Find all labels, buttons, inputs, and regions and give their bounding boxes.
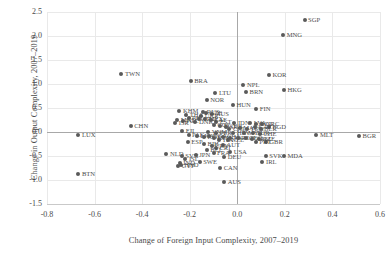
scatter-point-label: CAN	[224, 165, 238, 172]
scatter-point	[76, 133, 80, 137]
scatter-point-label: LUX	[82, 132, 96, 139]
scatter-point	[253, 125, 257, 129]
scatter-point	[241, 83, 245, 87]
scatter-point-label: ESP	[191, 139, 202, 146]
scatter-point	[303, 18, 307, 22]
x-axis-tick-label: -0.4	[122, 210, 162, 219]
scatter-point	[254, 107, 258, 111]
scatter-point	[314, 133, 318, 137]
scatter-point	[260, 160, 264, 164]
scatter-point	[179, 163, 183, 167]
y-axis-tick-label: 0.5	[6, 103, 42, 112]
x-gridline	[380, 12, 381, 204]
y-gridline	[47, 156, 380, 157]
scatter-point-label: MDA	[287, 153, 302, 160]
scatter-point	[244, 90, 248, 94]
scatter-point-label: TWN	[125, 71, 140, 78]
scatter-point-label: MNG	[287, 32, 302, 39]
scatter-point	[218, 166, 222, 170]
bottom-axis-line	[47, 204, 380, 205]
scatter-point	[212, 136, 216, 140]
scatter-point	[221, 135, 225, 139]
scatter-point	[222, 180, 226, 184]
scatter-point	[177, 109, 181, 113]
scatter-point	[187, 116, 191, 120]
y-axis-tick-label: -0.5	[6, 151, 42, 160]
scatter-point	[195, 134, 199, 138]
scatter-point	[212, 151, 216, 155]
y-gridline	[47, 180, 380, 181]
y-axis-tick-label: 0.0	[6, 127, 42, 136]
scatter-point	[129, 124, 133, 128]
scatter-point	[213, 91, 217, 95]
scatter-point	[76, 172, 80, 176]
scatter-point	[267, 73, 271, 77]
x-axis-tick-label: -0.2	[170, 210, 210, 219]
scatter-point-label: BRN	[250, 89, 264, 96]
x-axis-tick-label: 0.0	[217, 210, 257, 219]
x-axis-title: Change of Foreign Input Complexity, 2007…	[47, 236, 380, 245]
scatter-point-label: BGR	[363, 133, 377, 140]
scatter-point-label: HKG	[287, 87, 301, 94]
scatter-point	[209, 118, 213, 122]
y-axis-tick-label: 2.0	[6, 31, 42, 40]
scatter-point-label: BRA	[194, 78, 208, 85]
scatter-point	[187, 133, 191, 137]
scatter-point-label: AZE	[262, 136, 275, 143]
scatter-point-label: USA	[234, 149, 247, 156]
y-axis-tick-label: 1.0	[6, 79, 42, 88]
scatter-point-label: NOR	[210, 97, 224, 104]
scatter-point	[259, 127, 263, 131]
y-gridline	[47, 36, 380, 37]
scatter-point	[357, 134, 361, 138]
y-axis-tick-label: 2.5	[6, 7, 42, 16]
plot-area: -0.8-0.6-0.4-0.20.00.20.40.62.52.01.51.0…	[47, 12, 380, 204]
scatter-point-label: FIN	[260, 106, 271, 113]
y-axis-tick-label: -1.5	[6, 199, 42, 208]
scatter-point	[205, 98, 209, 102]
y-gridline	[47, 60, 380, 61]
scatter-point-label: IRL	[266, 159, 277, 166]
scatter-point	[119, 72, 123, 76]
x-axis-tick-label: -0.8	[27, 210, 67, 219]
y-axis-tick-label: -1.0	[6, 175, 42, 184]
scatter-point-label: CHN	[134, 123, 148, 130]
x-axis-tick-label: 0.4	[312, 210, 352, 219]
x-axis-tick-label: -0.6	[75, 210, 115, 219]
scatter-point-label: SGP	[308, 17, 320, 24]
scatter-point-label: SWE	[203, 159, 217, 166]
scatter-point	[212, 123, 216, 127]
scatter-point	[202, 142, 206, 146]
scatter-point-label: MLT	[320, 132, 333, 139]
scatter-point	[218, 124, 222, 128]
scatter-point	[282, 88, 286, 92]
scatter-point	[257, 137, 261, 141]
scatter-point	[186, 140, 190, 144]
y-gridline	[47, 12, 380, 13]
scatter-point	[189, 79, 193, 83]
y-gridline	[47, 84, 380, 85]
scatter-point	[173, 121, 177, 125]
scatter-point-label: HND	[184, 162, 198, 169]
x-axis-tick-label: 0.2	[265, 210, 305, 219]
scatter-point-label: HUN	[237, 102, 251, 109]
x-axis-tick-label: 0.6	[360, 210, 390, 219]
scatter-point	[231, 103, 235, 107]
scatter-point-label: AUS	[228, 179, 241, 186]
scatter-point	[282, 154, 286, 158]
scatter-point	[202, 135, 206, 139]
scatter-point-label: BTN	[82, 171, 95, 178]
y-axis-tick-label: 1.5	[6, 55, 42, 64]
scatter-point	[228, 136, 232, 140]
scatter-point-label: KOR	[272, 72, 286, 79]
scatter-point-label: BLR	[264, 126, 277, 133]
scatter-point-label: ISR	[179, 120, 189, 127]
scatter-point	[197, 117, 201, 121]
